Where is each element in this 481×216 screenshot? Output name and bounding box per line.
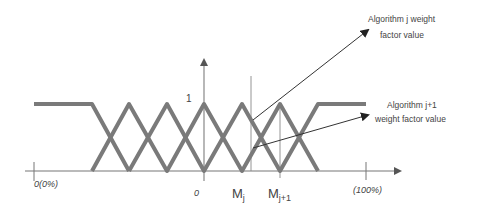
annotation-j-line1: Algorithm j weight: [368, 14, 436, 24]
annotation-j1-line2: weight factor value: [374, 114, 446, 124]
y-axis-top-label: 1: [186, 93, 192, 104]
x-axis-origin-label: 0: [194, 188, 199, 198]
annotation-arrow-j: [253, 30, 368, 120]
annotation-j-line2: factor value: [380, 30, 424, 40]
mj1-label: Mj+1: [268, 186, 291, 203]
annotation-j1-line1: Algorithm j+1: [387, 100, 437, 110]
mj-label: Mj: [232, 186, 245, 203]
fuzzy-membership-diagram: 1 0(0%) 0 Mj Mj+1 (100%) Algorithm j wei…: [0, 0, 481, 216]
x-axis-right-label: (100%): [353, 185, 382, 195]
x-axis-left-label: 0(0%): [34, 179, 58, 189]
membership-functions: [34, 104, 366, 171]
left-shoulder-function: [34, 104, 129, 171]
